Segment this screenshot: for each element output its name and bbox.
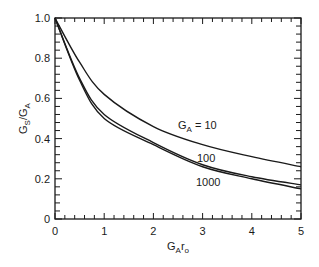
y-tick-label: 0.4 <box>35 133 50 145</box>
curve-label-100: 100 <box>197 152 215 164</box>
curve-label-ga-10: GA = 10 <box>178 119 217 134</box>
chart: 01234500.20.40.60.81.0 GA = 10 100 1000 … <box>0 0 319 267</box>
x-axis-label: GAro <box>167 240 190 255</box>
x-tick-label: 3 <box>200 225 206 237</box>
curves <box>55 18 301 189</box>
x-tick-label: 4 <box>249 225 255 237</box>
curve-series-0 <box>55 18 301 167</box>
x-tick-label: 1 <box>101 225 107 237</box>
curve-series-2 <box>55 18 301 189</box>
y-tick-label: 0.2 <box>35 173 50 185</box>
x-tick-label: 5 <box>298 225 304 237</box>
curve-label-1000: 1000 <box>196 176 220 188</box>
tick-labels: 01234500.20.40.60.81.0 <box>35 12 304 237</box>
y-tick-label: 0 <box>44 213 50 225</box>
x-tick-label: 2 <box>150 225 156 237</box>
y-tick-label: 0.8 <box>35 52 50 64</box>
x-tick-label: 0 <box>52 225 58 237</box>
y-tick-label: 1.0 <box>35 12 50 24</box>
y-tick-label: 0.6 <box>35 92 50 104</box>
y-axis-label: GS/GA <box>17 102 32 134</box>
